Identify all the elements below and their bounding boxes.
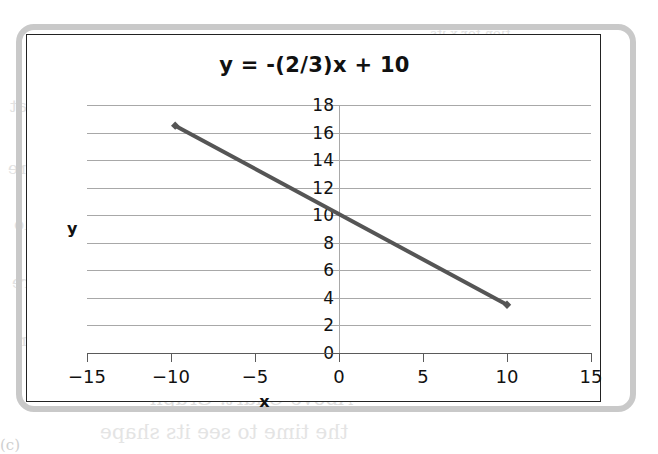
series-line-0 [175,126,507,305]
x-tick-0 [339,353,340,362]
x-tick-10 [507,353,508,362]
x-tick-label--5: −5 [242,366,269,387]
bleed-text-line8: the time to see its shape [100,420,348,444]
chart-title: y = -(2/3)x + 10 [27,53,602,77]
x-tick-label-15: 15 [580,366,603,387]
x-tick--5 [255,353,256,362]
x-tick-label-0: 0 [333,366,344,387]
x-tick-5 [423,353,424,362]
x-axis-title-text: x [259,392,269,411]
x-tick-label--15: −15 [68,366,106,387]
x-tick--15 [87,353,88,362]
plot-area: 024681012141618 [87,105,591,353]
x-tick--10 [171,353,172,362]
x-axis-title: x [27,392,602,411]
x-tick-15 [591,353,592,362]
chart-container: y = -(2/3)x + 10 024681012141618 −15−10−… [26,34,601,402]
x-tick-label-10: 10 [496,366,519,387]
y-axis-title: y [67,219,77,238]
x-tick-label-5: 5 [417,366,428,387]
bleed-text-line9: (c) [0,436,20,454]
x-tick-label--10: −10 [152,366,190,387]
data-series-line [87,105,591,353]
